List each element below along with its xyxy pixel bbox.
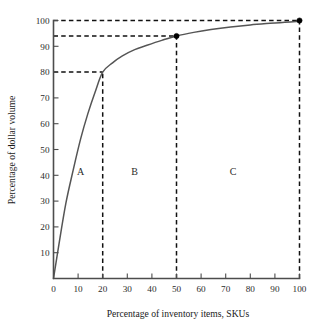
x-tick-label: 50: [172, 284, 182, 294]
region-label-c: C: [230, 166, 237, 177]
y-tick-label: 50: [40, 145, 50, 155]
y-axis-ticks: 102030405060708090100: [36, 16, 59, 258]
y-tick-label: 60: [40, 119, 50, 129]
x-tick-label: 80: [246, 284, 256, 294]
region-label-a: A: [77, 166, 85, 177]
data-point-marker: [174, 33, 179, 38]
y-tick-label: 40: [40, 171, 50, 181]
guides-layer: [54, 21, 300, 279]
x-tick-label: 10: [74, 284, 84, 294]
y-tick-label: 30: [40, 196, 50, 206]
x-axis-ticks: 0102030405060708090100: [51, 274, 307, 294]
x-tick-label: 20: [98, 284, 108, 294]
y-tick-label: 100: [36, 16, 50, 26]
y-tick-label: 80: [40, 67, 50, 77]
x-tick-label: 90: [270, 284, 280, 294]
x-tick-label: 60: [197, 284, 207, 294]
y-axis-title: Percentage of dollar volume: [6, 96, 17, 204]
x-tick-label: 30: [123, 284, 133, 294]
x-axis-title: Percentage of inventory items, SKUs: [107, 308, 250, 319]
abc-analysis-chart: 102030405060708090100 010203040506070809…: [0, 0, 317, 323]
y-tick-label: 90: [40, 42, 50, 52]
x-tick-label: 0: [51, 284, 56, 294]
y-tick-label: 10: [40, 248, 50, 258]
y-tick-label: 20: [40, 222, 50, 232]
region-labels-layer: ABC: [77, 166, 237, 177]
data-point-marker: [297, 18, 302, 23]
region-label-b: B: [131, 166, 138, 177]
y-tick-label: 70: [40, 93, 50, 103]
x-tick-label: 100: [293, 284, 307, 294]
chart-canvas: 102030405060708090100 010203040506070809…: [0, 0, 317, 323]
x-tick-label: 40: [147, 284, 157, 294]
x-tick-label: 70: [221, 284, 231, 294]
